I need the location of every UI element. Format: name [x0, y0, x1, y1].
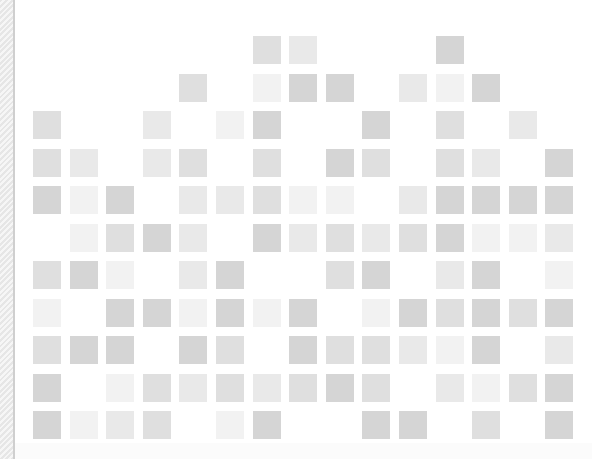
grid-tile [362, 411, 390, 439]
grid-tile [472, 336, 500, 364]
grid-tile [545, 149, 573, 177]
grid-tile [216, 411, 244, 439]
grid-tile [436, 149, 464, 177]
grid-tile [436, 186, 464, 214]
footer-strip [15, 443, 592, 459]
grid-tile [399, 336, 427, 364]
grid-tile [436, 336, 464, 364]
grid-tile [289, 336, 317, 364]
grid-tile [179, 224, 207, 252]
grid-tile [509, 224, 537, 252]
grid-tile [472, 74, 500, 102]
grid-tile [143, 411, 171, 439]
grid-tile [509, 299, 537, 327]
grid-tile [472, 374, 500, 402]
grid-tile [399, 224, 427, 252]
grid-tile [289, 36, 317, 64]
grid-tile [472, 411, 500, 439]
grid-tile [472, 261, 500, 289]
grid-tile [143, 224, 171, 252]
grid-tile [472, 186, 500, 214]
grid-tile [106, 336, 134, 364]
grid-tile [106, 299, 134, 327]
grid-tile [289, 74, 317, 102]
grid-tile [326, 149, 354, 177]
grid-tile [436, 74, 464, 102]
grid-tile [143, 299, 171, 327]
grid-tile [143, 149, 171, 177]
grid-tile [362, 336, 390, 364]
grid-tile [362, 261, 390, 289]
grid-tile [179, 149, 207, 177]
grid-tile [399, 411, 427, 439]
grid-tile [545, 299, 573, 327]
grid-tile [253, 299, 281, 327]
grid-tile [326, 74, 354, 102]
grid-tile [399, 186, 427, 214]
grid-tile [253, 74, 281, 102]
grid-tile [179, 261, 207, 289]
grid-tile [179, 74, 207, 102]
grid-tile [289, 186, 317, 214]
grid-tile [33, 111, 61, 139]
grid-tile [143, 374, 171, 402]
grid-tile [545, 186, 573, 214]
grid-tile [509, 111, 537, 139]
grid-tile [179, 186, 207, 214]
grid-tile [326, 261, 354, 289]
grid-tile [509, 374, 537, 402]
grid-tile [436, 36, 464, 64]
grid-tile [436, 111, 464, 139]
grid-tile [216, 299, 244, 327]
grid-tile [33, 411, 61, 439]
grid-tile [253, 186, 281, 214]
grid-tile [33, 299, 61, 327]
grid-tile [472, 299, 500, 327]
grid-tile [33, 149, 61, 177]
grid-tile [326, 336, 354, 364]
grid-tile [289, 299, 317, 327]
grid-tile [436, 374, 464, 402]
grid-tile [289, 374, 317, 402]
grid-tile [179, 299, 207, 327]
grid-tile [362, 149, 390, 177]
grid-tile [326, 374, 354, 402]
grid-tile [362, 299, 390, 327]
grid-tile [106, 261, 134, 289]
grid-tile [216, 111, 244, 139]
grid-tile [216, 374, 244, 402]
grid-tile [70, 224, 98, 252]
grid-tile [436, 224, 464, 252]
grid-tile [216, 186, 244, 214]
grid-tile [545, 224, 573, 252]
grid-tile [70, 336, 98, 364]
grid-tile [545, 411, 573, 439]
grid-tile [436, 261, 464, 289]
grid-tile [179, 374, 207, 402]
grid-tile [362, 374, 390, 402]
grid-tile [545, 261, 573, 289]
grid-tile [253, 374, 281, 402]
grid-tile [106, 411, 134, 439]
grid-tile [436, 299, 464, 327]
grid-tile [216, 261, 244, 289]
grid-tile [106, 224, 134, 252]
grid-tile [33, 261, 61, 289]
grid-tile [253, 149, 281, 177]
grid-tile [106, 186, 134, 214]
grid-tile [70, 261, 98, 289]
grid-tile [253, 36, 281, 64]
grid-tile [472, 224, 500, 252]
grid-tile [33, 336, 61, 364]
grid-tile [362, 224, 390, 252]
grid-tile [70, 149, 98, 177]
grid-tile [253, 411, 281, 439]
grid-tile [399, 74, 427, 102]
grid-tile [33, 186, 61, 214]
grid-tile [326, 186, 354, 214]
grid-tile [70, 411, 98, 439]
grid-tile [143, 111, 171, 139]
grid-tile [106, 374, 134, 402]
grid-tile [545, 374, 573, 402]
grid-tile [509, 186, 537, 214]
